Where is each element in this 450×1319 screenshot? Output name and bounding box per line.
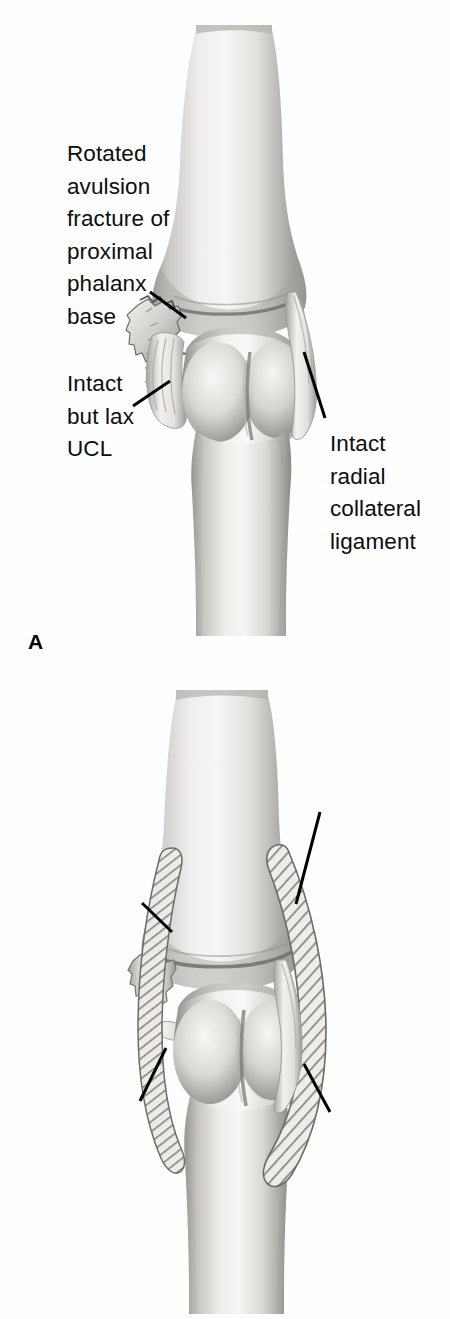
panel-a: Rotated avulsion fracture of proximal ph… (0, 0, 450, 660)
label-intact-but-lax-ucl: Intact but lax UCL (67, 368, 217, 466)
panel-b-illustration (0, 660, 450, 1319)
metacarpal-shaft (184, 1096, 289, 1314)
label-intact-radial-collateral-ligament: Intact radial collateral ligament (330, 428, 450, 558)
panel-letter-a: A (28, 630, 43, 654)
label-rotated-avulsion-fracture: Rotated avulsion fracture of proximal ph… (67, 138, 242, 333)
leader-line-abductor (296, 812, 320, 904)
figure-container: Rotated avulsion fracture of proximal ph… (0, 0, 450, 1319)
panel-b: Narrow adductor aponeurosis interposed b… (0, 660, 450, 1319)
